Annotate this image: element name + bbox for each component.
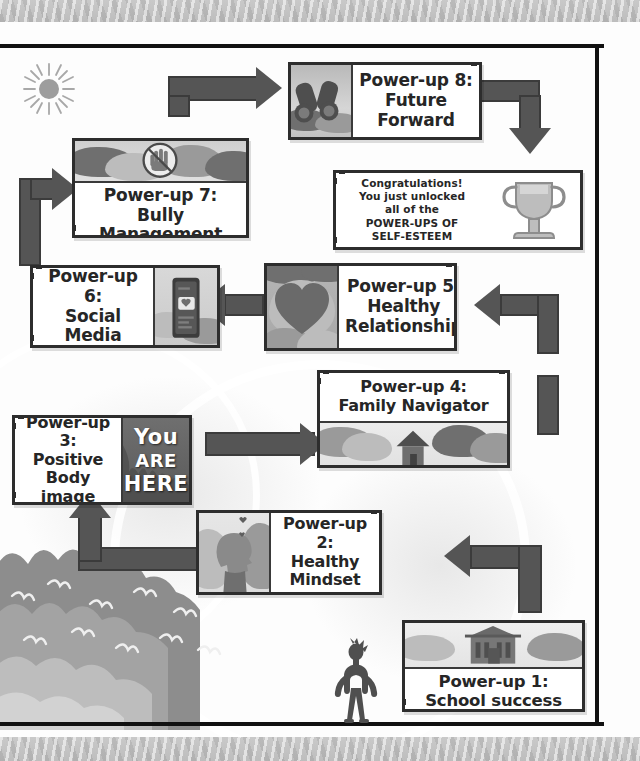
node-powerup2-label: Power-up 2: Healthy Mindset [269,513,379,592]
you-are-here-line-1: You [134,425,178,449]
arrow-7-to-8-stub [168,95,190,117]
you-are-here-marker: You ARE HERE [121,418,189,502]
you-are-here-text: You ARE HERE [123,418,189,502]
node-powerup6[interactable]: Power-up 6: Social Media [30,265,220,348]
frame-right-rule [595,44,599,726]
sun-icon [22,62,76,116]
heart-icon [267,266,337,348]
standing-person-silhouette [330,636,382,724]
node-powerup6-label: Power-up 6: Social Media [33,268,153,345]
bottom-banner-texture [0,737,640,761]
node-powerup2[interactable]: Power-up 2: Healthy Mindset [196,510,382,595]
node-powerup3-label: Power-up 3: Positive Body image [15,418,121,502]
arrow-3-to-4-shaft [205,432,315,456]
node-congratulations-label: Congratulations! You just unlocked all o… [336,173,488,247]
school-building-icon [405,623,582,667]
node-powerup1-label: Power-up 1: School success [405,667,582,712]
arrow-1-to-2-shaft-v [518,545,542,613]
no-hand-icon [75,141,246,181]
journey-map-canvas: Power-up 8: Future Forward Congratulatio… [0,0,640,761]
arrow-7-to-8-head [256,67,282,109]
smartphone-icon [153,268,217,345]
node-powerup8-label: Power-up 8: Future Forward [351,65,479,137]
node-powerup1[interactable]: Power-up 1: School success [402,620,585,712]
arrow-4-to-5-head [474,284,500,326]
binoculars-icon [291,65,351,137]
node-powerup5-label: Power-up 5: Healthy Relationship [337,266,457,348]
node-powerup7-label: Power-up 7: Bully Management [75,181,246,238]
head-profile-hearts-icon [199,513,269,592]
node-powerup7[interactable]: Power-up 7: Bully Management [72,138,249,238]
trophy-icon [488,173,580,247]
node-congratulations[interactable]: Congratulations! You just unlocked all o… [333,170,583,250]
you-are-here-line-3: HERE [124,472,188,496]
arrow-4-to-5-shaft-v [537,375,559,435]
house-icon [320,421,507,465]
node-powerup5[interactable]: Power-up 5: Healthy Relationship [264,263,457,351]
arrow-2-to-3-shaft-v [78,516,102,562]
top-banner-texture [0,0,640,22]
arrow-4-to-5-corner [537,294,559,354]
frame-top-rule [0,44,604,48]
arrow-8-to-congrats-head [509,128,551,154]
you-are-here-line-2: ARE [135,450,177,471]
arrow-5-to-6-shaft [224,294,264,316]
arrow-1-to-2-head [444,535,470,577]
node-powerup3[interactable]: Power-up 3: Positive Body image You ARE … [12,415,192,505]
node-powerup8[interactable]: Power-up 8: Future Forward [288,62,482,140]
frame-bottom-rule [0,722,604,726]
node-powerup4-label: Power-up 4: Family Navigator [320,373,507,421]
node-powerup4[interactable]: Power-up 4: Family Navigator [317,370,510,468]
